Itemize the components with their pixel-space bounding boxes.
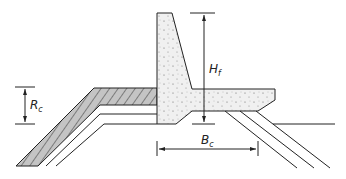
- bc-main: B: [201, 133, 209, 147]
- rc-sub: c: [38, 105, 42, 114]
- hf-sub: f: [218, 69, 221, 78]
- diagram-canvas: Hf Rc Bc: [0, 0, 346, 179]
- hf-main: H: [209, 62, 218, 76]
- bc-sub: c: [209, 140, 213, 149]
- hf-label: Hf: [209, 62, 221, 78]
- underlayer-right: [225, 111, 330, 168]
- rc-label: Rc: [30, 98, 43, 114]
- bc-label: Bc: [201, 133, 214, 149]
- crown-wall-diagram: [0, 0, 346, 179]
